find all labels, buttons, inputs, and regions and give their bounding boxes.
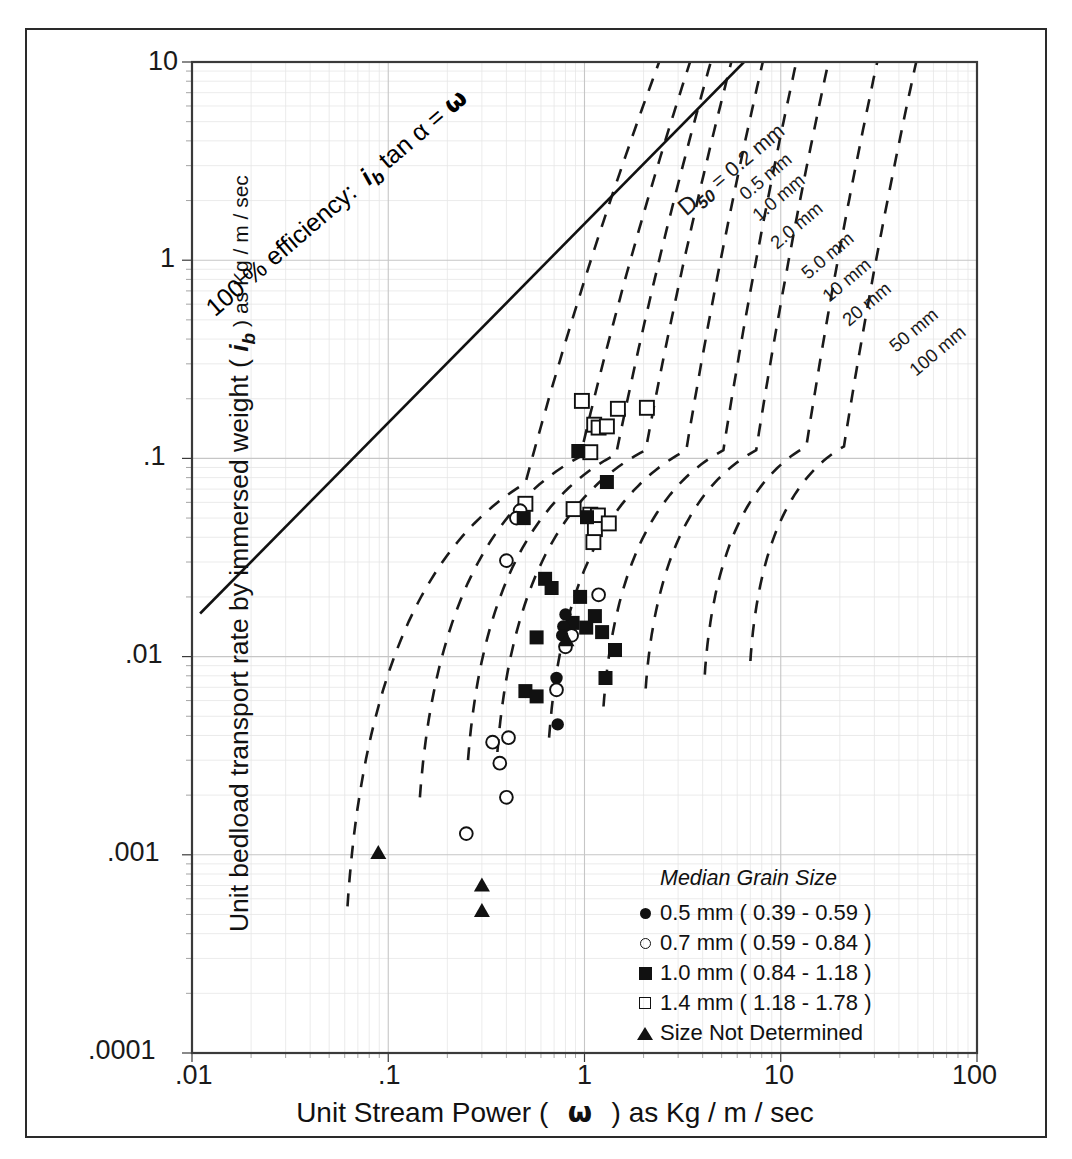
y-axis-title-ib-sub: b [238, 333, 259, 345]
x-tick-label-1: 1 [577, 1060, 592, 1091]
data-point-s1-11 [500, 791, 513, 804]
data-point-s0-0 [559, 608, 571, 620]
x-tick-label-0.01: .01 [175, 1060, 213, 1091]
x-axis-title-omega: ω [568, 1096, 592, 1129]
data-point-s4-0 [370, 845, 386, 859]
y-axis-title-ib: i [224, 344, 254, 351]
data-point-s1-8 [486, 736, 499, 749]
data-point-s2-10 [579, 621, 593, 635]
legend-symbol-open-square-icon [630, 988, 660, 1018]
data-point-s2-15 [599, 671, 613, 685]
x-tick-label-10: 10 [764, 1060, 794, 1091]
d50-curve-family [348, 62, 917, 906]
legend-item-3: 1.4 mm ( 1.18 - 1.78 ) [630, 988, 872, 1018]
y-tick-label-0.001: .001 [107, 837, 160, 868]
data-point-s4-2 [474, 903, 490, 917]
legend-item-label-1: 0.7 mm ( 0.59 - 0.84 ) [660, 930, 872, 956]
x-axis-title-post: ) as Kg / m / sec [612, 1097, 814, 1128]
data-point-s2-0 [571, 444, 585, 458]
figure-root: 10 1 .1 .01 .001 .0001 .01 .1 1 10 100 U… [0, 0, 1072, 1159]
data-point-s3-2 [640, 401, 654, 415]
data-point-s2-12 [530, 630, 544, 644]
data-point-s1-9 [502, 731, 515, 744]
x-axis-title-pre: Unit Stream Power ( [296, 1097, 548, 1128]
data-point-s2-3 [580, 510, 594, 524]
data-point-s1-2 [500, 554, 513, 567]
data-point-s2-2 [517, 511, 531, 525]
legend-title: Median Grain Size [660, 866, 872, 891]
x-axis-title: Unit Stream Power ( ω ) as Kg / m / sec [0, 1096, 1072, 1129]
data-point-s3-12 [586, 535, 600, 549]
legend-symbol-open-circle-icon [630, 928, 660, 958]
data-point-s3-1 [611, 402, 625, 416]
data-point-s3-11 [602, 516, 616, 530]
d50-curve-2 [468, 62, 711, 760]
data-point-s2-7 [573, 590, 587, 604]
data-point-s3-5 [600, 419, 614, 433]
y-axis-title: Unit bedload transport rate by immersed … [224, 54, 259, 1054]
legend-symbol-filled-triangle-icon [630, 1018, 660, 1048]
y-tick-label-10: 10 [148, 46, 178, 77]
data-point-s2-4 [608, 643, 622, 657]
data-point-s1-10 [493, 757, 506, 770]
data-point-s1-7 [550, 683, 563, 696]
data-point-s3-7 [567, 502, 581, 516]
x-tick-label-0.1: .1 [378, 1060, 401, 1091]
data-point-s3-6 [583, 445, 597, 459]
data-point-s2-14 [530, 689, 544, 703]
legend-item-label-2: 1.0 mm ( 0.84 - 1.18 ) [660, 960, 872, 986]
legend-rows: 0.5 mm ( 0.39 - 0.59 )0.7 mm ( 0.59 - 0.… [630, 898, 872, 1048]
legend-symbol-filled-square-icon [630, 958, 660, 988]
plot-canvas [0, 0, 1072, 1159]
x-tick-label-100: 100 [952, 1060, 997, 1091]
legend-symbol-filled-circle-icon [630, 898, 660, 928]
data-point-s2-11 [595, 625, 609, 639]
data-point-s1-5 [592, 588, 605, 601]
data-point-s0-3 [550, 672, 562, 684]
efficiency-reference-line [200, 62, 744, 613]
legend-item-label-0: 0.5 mm ( 0.39 - 0.59 ) [660, 900, 872, 926]
y-tick-label-0.01: .01 [125, 639, 163, 670]
data-point-s2-1 [600, 475, 614, 489]
data-point-s1-12 [460, 827, 473, 840]
y-tick-label-0.0001: .0001 [88, 1035, 156, 1066]
y-tick-label-1: 1 [160, 243, 175, 274]
data-point-s3-0 [575, 394, 589, 408]
data-point-s2-6 [545, 581, 559, 595]
legend-item-2: 1.0 mm ( 0.84 - 1.18 ) [630, 958, 872, 988]
legend: Median Grain Size 0.5 mm ( 0.39 - 0.59 )… [630, 866, 872, 1048]
data-point-s0-4 [552, 718, 564, 730]
legend-item-4: Size Not Determined [630, 1018, 872, 1048]
legend-item-0: 0.5 mm ( 0.39 - 0.59 ) [630, 898, 872, 928]
y-axis-title-pre: Unit bedload transport rate by immersed … [224, 359, 254, 932]
legend-item-label-4: Size Not Determined [660, 1020, 863, 1046]
legend-item-label-3: 1.4 mm ( 1.18 - 1.78 ) [660, 990, 872, 1016]
data-point-s4-1 [474, 878, 490, 892]
legend-item-1: 0.7 mm ( 0.59 - 0.84 ) [630, 928, 872, 958]
y-tick-label-0.1: .1 [143, 441, 166, 472]
